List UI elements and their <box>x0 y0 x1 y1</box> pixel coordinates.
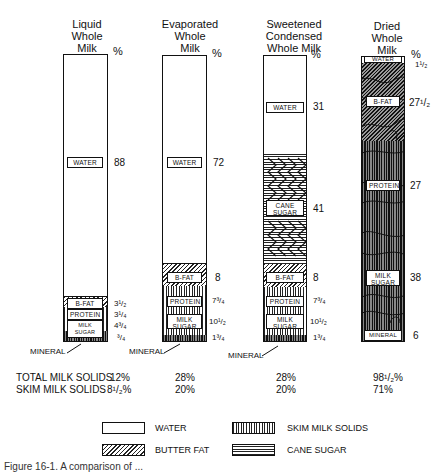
mineral-pointer-label: MINERAL <box>228 351 264 360</box>
total-milk-solids-liquid: 12% <box>110 372 130 383</box>
segment-value-b-fat: 27¹/₂ <box>409 97 430 108</box>
legend-label-butter-fat: BUTTER FAT <box>155 445 209 455</box>
legend-swatch-skim-milk-solids <box>232 422 275 434</box>
column-title: Sweetened Condensed Whole Milk <box>255 18 333 54</box>
skim-milk-solids-condensed: 20% <box>276 384 296 395</box>
title-line: Milk <box>54 42 120 54</box>
segment-mineral <box>264 335 306 342</box>
segment-label-water: WATER <box>67 157 103 168</box>
segment-value-cane-sugar: 41 <box>313 203 324 214</box>
title-line: Condensed <box>255 30 333 42</box>
segment-label-protein: PROTEIN <box>67 309 103 320</box>
segment-value-water: 88 <box>114 157 125 168</box>
segment-label-mineral: MINERAL <box>364 330 402 341</box>
segment-label-protein: PROTEIN <box>266 296 304 307</box>
total-milk-solids-dried: 98¹/₂% <box>373 372 403 383</box>
legend-swatch-water <box>102 422 145 434</box>
mineral-pointer-label: MINERAL <box>129 347 165 356</box>
segment-value-milk-sugar: 10¹/₂ <box>209 317 226 326</box>
title-line: Liquid <box>54 18 120 30</box>
segment-value-b-fat: 8 <box>313 272 319 283</box>
legend-label-skim-milk-solids: SKIM MILK SOLIDS <box>287 423 368 433</box>
skim-milk-solids-dried: 71% <box>373 384 393 395</box>
segment-mineral <box>163 335 206 342</box>
mineral-pointer-label: MINERAL <box>30 347 66 356</box>
total-milk-solids-condensed: 28% <box>276 372 296 383</box>
segment-label-b-fat: B-FAT <box>266 272 304 283</box>
segment-label-milk-sugar: MILK SUGAR <box>67 320 103 338</box>
legend-label-cane-sugar: CANE SUGAR <box>287 445 347 455</box>
skim-milk-solids-liquid: 8¹/₂% <box>107 384 131 395</box>
segment-value-b-fat: 8 <box>215 272 221 283</box>
skim-milk-solids-label: SKIM MILK SOLIDS <box>16 384 106 395</box>
title-line: Whole <box>362 32 412 44</box>
segment-value-mineral: 1³/₄ <box>313 333 326 342</box>
title-line: Sweetened <box>255 18 333 30</box>
title-line: Whole <box>54 30 120 42</box>
segment-label-b-fat: B-FAT <box>167 272 202 283</box>
segment-value-protein: 3¹/₄ <box>114 310 127 319</box>
skim-milk-solids-evaporated: 20% <box>175 384 195 395</box>
legend-label-water: WATER <box>155 423 187 433</box>
segment-value-protein: 27 <box>410 180 421 191</box>
legend-swatch-cane-sugar <box>232 444 275 456</box>
segment-label-water: WATER <box>266 102 304 113</box>
segment-label-b-fat: B-FAT <box>67 298 103 309</box>
segment-value-protein: 7³/₄ <box>212 296 225 305</box>
segment-value-mineral: 6 <box>413 330 419 341</box>
title-line: Evaporated <box>150 18 230 30</box>
segment-value-mineral: ³/₄ <box>117 333 125 342</box>
segment-value-milk-sugar: 4³/₄ <box>114 321 127 330</box>
legend-swatch-butter-fat <box>102 444 145 456</box>
column-title: Liquid Whole Milk <box>54 18 120 54</box>
title-line: Whole Milk <box>255 42 333 54</box>
percent-header: % <box>212 47 222 59</box>
segment-label-protein: PROTEIN <box>167 296 202 307</box>
segment-value-water: 1¹/₂ <box>415 60 427 69</box>
segment-label-b-fat: B-FAT <box>366 96 400 107</box>
percent-header: % <box>113 45 123 57</box>
segment-value-protein: 7³/₄ <box>313 296 326 305</box>
segment-label-milk-sugar: MILK SUGAR <box>266 314 304 329</box>
segment-value-milk-sugar: 38 <box>410 272 421 283</box>
figure-caption: Figure 16-1. A comparison of ... <box>4 461 143 472</box>
segment-label-milk-sugar: MILK SUGAR <box>366 270 400 286</box>
segment-value-milk-sugar: 10¹/₂ <box>310 317 327 326</box>
segment-label-protein: PROTEIN <box>366 180 400 191</box>
mineral-pointer-line <box>0 0 1 1</box>
percent-header: % <box>411 48 421 60</box>
total-milk-solids-label: TOTAL MILK SOLIDS <box>16 372 113 383</box>
percent-header: % <box>311 48 321 60</box>
segment-value-water: 72 <box>213 157 224 168</box>
segment-value-mineral: 1³/₄ <box>212 333 225 342</box>
segment-label-cane-sugar: CANE SUGAR <box>266 200 304 216</box>
segment-water <box>64 55 107 296</box>
segment-label-water: WATER <box>167 157 202 168</box>
title-line: Milk <box>362 44 412 56</box>
segment-value-water: 31 <box>313 101 324 112</box>
segment-value-b-fat: 3¹/₂ <box>114 299 126 308</box>
title-line: Whole <box>150 30 230 42</box>
segment-label-water: WATER <box>364 56 402 63</box>
segment-label-milk-sugar: MILK SUGAR <box>167 314 202 329</box>
title-line: Dried <box>362 20 412 32</box>
total-milk-solids-evaporated: 28% <box>175 372 195 383</box>
column-title: Dried Whole Milk <box>362 20 412 56</box>
